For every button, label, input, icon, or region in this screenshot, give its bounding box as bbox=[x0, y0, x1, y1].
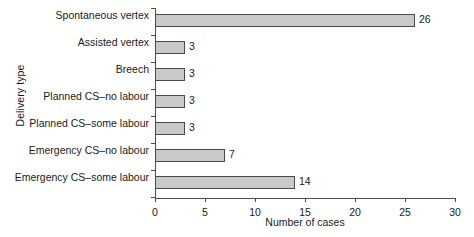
x-axis-tick-mark bbox=[255, 198, 256, 202]
plot-area: 26 3 3 3 3 7 14 bbox=[155, 8, 455, 198]
bar bbox=[155, 68, 185, 81]
bar-value-label: 3 bbox=[189, 39, 195, 53]
y-axis-tick-label: Assisted vertex bbox=[0, 35, 149, 49]
y-axis-tick-mark bbox=[151, 89, 155, 90]
y-axis-tick-label: Emergency CS–some labour bbox=[0, 170, 149, 184]
y-axis-tick-label: Planned CS–no labour bbox=[0, 89, 149, 103]
x-axis-tick-mark bbox=[205, 198, 206, 202]
bar bbox=[155, 95, 185, 108]
bar bbox=[155, 14, 415, 27]
x-axis-tick-mark bbox=[455, 198, 456, 202]
y-axis-tick-label: Spontaneous vertex bbox=[0, 8, 149, 22]
y-axis-tick-mark bbox=[151, 170, 155, 171]
y-axis-tick-mark bbox=[151, 35, 155, 36]
y-axis-tick-label: Breech bbox=[0, 62, 149, 76]
y-axis-tick-label: Planned CS–some labour bbox=[0, 116, 149, 130]
bar-chart: Delivery type Spontaneous vertex Assiste… bbox=[0, 0, 474, 237]
bar-value-label: 14 bbox=[299, 174, 311, 188]
bar bbox=[155, 176, 295, 189]
y-axis-tick-mark bbox=[151, 8, 155, 9]
y-axis-tick-label: Emergency CS–no labour bbox=[0, 143, 149, 157]
bar-value-label: 7 bbox=[229, 147, 235, 161]
y-axis-tick-mark bbox=[151, 116, 155, 117]
y-axis-tick-mark bbox=[151, 143, 155, 144]
bar-value-label: 3 bbox=[189, 66, 195, 80]
x-axis-tick-mark bbox=[405, 198, 406, 202]
bar-value-label: 3 bbox=[189, 120, 195, 134]
x-axis-tick-mark bbox=[155, 198, 156, 202]
x-axis-title: Number of cases bbox=[155, 216, 455, 228]
y-axis-category-labels: Spontaneous vertex Assisted vertex Breec… bbox=[0, 8, 149, 198]
x-axis-tick-mark bbox=[305, 198, 306, 202]
bar-value-label: 3 bbox=[189, 93, 195, 107]
bar-value-label: 26 bbox=[419, 12, 431, 26]
bar bbox=[155, 41, 185, 54]
bar bbox=[155, 149, 225, 162]
y-axis-tick-mark bbox=[151, 62, 155, 63]
bar bbox=[155, 122, 185, 135]
x-axis-tick-mark bbox=[355, 198, 356, 202]
